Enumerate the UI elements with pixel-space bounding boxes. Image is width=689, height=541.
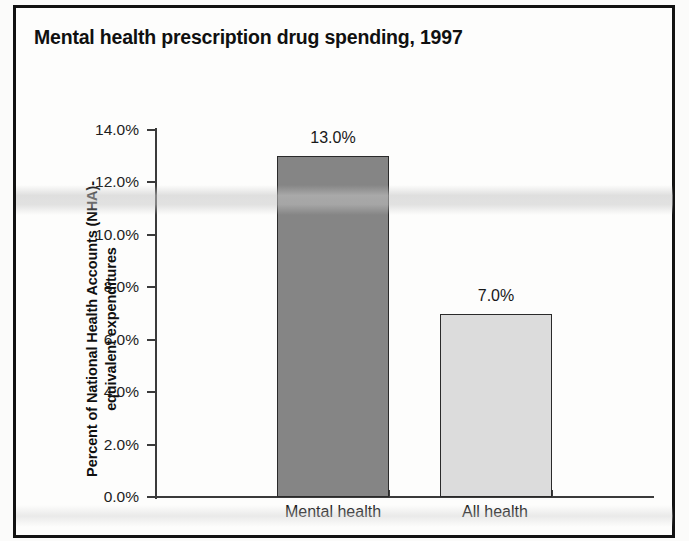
x-axis-tick-0: [155, 490, 157, 498]
bar-value-label-mental-health: 13.0%: [257, 129, 409, 147]
x-axis-category-label-all-health: All health: [434, 503, 556, 521]
figure-canvas: Mental health prescription drug spending…: [0, 0, 689, 541]
x-axis-line: [155, 496, 654, 498]
y-axis-title-line-1: Percent of National Health Accounts (NHA…: [84, 181, 100, 477]
x-axis-category-label-mental-health: Mental health: [272, 503, 394, 521]
bar-value-label-all-health: 7.0%: [420, 287, 572, 305]
y-axis-tick-5: [147, 234, 156, 236]
y-axis-tick-6: [147, 181, 156, 183]
y-axis-tick-3: [147, 339, 156, 341]
y-axis-tick-1: [147, 444, 156, 446]
y-axis-title: Percent of National Health Accounts (NHA…: [83, 129, 121, 529]
y-axis-tick-4: [147, 286, 156, 288]
bar-all-health[interactable]: [440, 314, 552, 498]
bar-mental-health[interactable]: [277, 156, 389, 497]
y-axis-tick-2: [147, 391, 156, 393]
y-axis-tick-7: [147, 129, 156, 131]
y-axis-title-line-2: equivalent expenditures: [103, 247, 119, 411]
plot-area: 0.0%2.0%4.0%6.0%8.0%10.0%12.0%14.0% 13.0…: [0, 0, 689, 541]
